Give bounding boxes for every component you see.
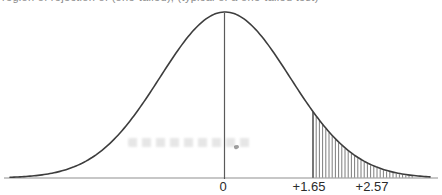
- normal-curve-canvas: 0+1.65+2.57: [0, 0, 442, 195]
- x-tick-label-0: 0: [219, 179, 226, 194]
- x-tick-label-165: +1.65: [293, 179, 326, 194]
- normal-curve-path: [10, 12, 430, 177]
- x-tick-label-257: +2.57: [356, 179, 389, 194]
- normal-curve-figure: region of rejection of (one-tailed), (ty…: [0, 0, 442, 195]
